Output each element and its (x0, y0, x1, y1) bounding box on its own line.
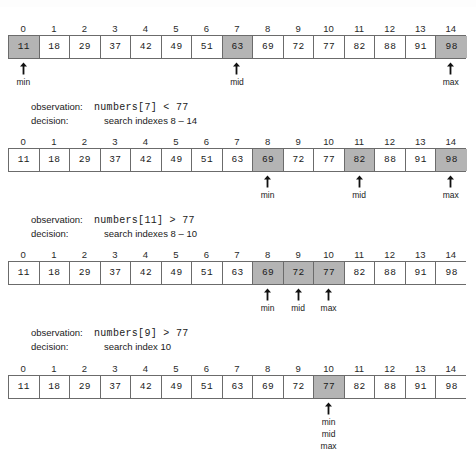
array-cell: 88 (375, 36, 406, 58)
array-cell: 18 (40, 36, 71, 58)
index-row: 01234567891011121314 (8, 135, 466, 148)
pointer-max: max (435, 59, 466, 88)
index-label: 6 (191, 362, 222, 375)
step-1: 0123456789101112131411182937424951636972… (0, 22, 476, 105)
pointer-mid: mid (222, 59, 253, 88)
note-step-2: observation:numbers[11] > 77decision:sea… (31, 214, 197, 242)
array-cell: 18 (40, 262, 71, 284)
decision-label: decision: (31, 115, 94, 126)
note-step-1: observation:numbers[7] < 77decision:sear… (31, 101, 197, 129)
pointer-label-mid: mid (344, 189, 375, 201)
array-cell: 88 (375, 376, 406, 398)
array-cell: 72 (284, 149, 315, 171)
index-label: 11 (344, 362, 375, 375)
pointer-layer: minmidmax (8, 172, 466, 218)
index-label: 4 (130, 248, 161, 261)
arrow-up-icon (263, 288, 272, 301)
array-cell: 18 (40, 376, 71, 398)
arrow-up-icon (19, 62, 28, 75)
index-label: 2 (69, 135, 100, 148)
index-label: 11 (344, 22, 375, 35)
pointer-label-max: max (313, 440, 344, 452)
decision-value: search index 10 (94, 341, 171, 352)
pointer-label-min: min (252, 189, 283, 201)
array-row: 111829374249516369727782889198 (8, 35, 466, 59)
observation-line: observation:numbers[11] > 77 (31, 214, 197, 228)
array-cell: 49 (162, 262, 193, 284)
index-label: 13 (405, 22, 436, 35)
index-label: 1 (39, 22, 70, 35)
decision-line: decision:search index 10 (31, 341, 189, 355)
index-label: 12 (374, 22, 405, 35)
index-label: 10 (313, 22, 344, 35)
arrow-up-icon (294, 288, 303, 301)
array-cell: 42 (131, 262, 162, 284)
index-label: 9 (283, 248, 314, 261)
array-cell: 77 (314, 36, 345, 58)
index-label: 14 (435, 22, 466, 35)
pointer-mid: mid (344, 172, 375, 201)
index-label: 9 (283, 22, 314, 35)
array-cell: 18 (40, 149, 71, 171)
observation-value: numbers[7] < 77 (94, 102, 189, 113)
pointer-label-min: min (8, 76, 39, 88)
observation-line: observation:numbers[7] < 77 (31, 101, 197, 115)
array-cell: 29 (70, 149, 101, 171)
array-cell: 42 (131, 36, 162, 58)
arrow-up-icon (324, 402, 333, 415)
index-label: 13 (405, 135, 436, 148)
index-label: 13 (405, 248, 436, 261)
decision-line: decision:search indexes 8 – 14 (31, 115, 197, 129)
array-cell: 82 (345, 376, 376, 398)
array-cell: 69 (253, 36, 284, 58)
array-cell-highlighted: 98 (436, 149, 467, 171)
observation-label: observation: (31, 214, 94, 225)
index-row: 01234567891011121314 (8, 362, 466, 375)
array-cell-highlighted: 69 (253, 262, 284, 284)
scan-artifact (0, 0, 476, 7)
array-cell: 51 (192, 149, 223, 171)
array-row: 111829374249516369727782889198 (8, 148, 466, 172)
observation-value: numbers[9] > 77 (94, 328, 189, 339)
array-cell-highlighted: 98 (436, 36, 467, 58)
pointer-labels: max (313, 302, 344, 314)
arrow-up-icon (324, 288, 333, 301)
index-label: 5 (161, 22, 192, 35)
index-row: 01234567891011121314 (8, 22, 466, 35)
pointer-min: min (252, 285, 283, 314)
array-cell: 37 (101, 36, 132, 58)
array-cell: 91 (406, 36, 437, 58)
pointer-labels: max (435, 76, 466, 88)
array-cell-highlighted: 77 (314, 262, 345, 284)
step-2: 0123456789101112131411182937424951636972… (0, 135, 476, 218)
pointer-labels: max (435, 189, 466, 201)
array-cell: 51 (192, 376, 223, 398)
array-cell: 82 (345, 36, 376, 58)
arrow-up-icon (355, 175, 364, 188)
observation-label: observation: (31, 101, 94, 112)
index-label: 4 (130, 362, 161, 375)
array-cell: 91 (406, 376, 437, 398)
pointer-labels: min (8, 76, 39, 88)
array-cell-highlighted: 63 (223, 36, 254, 58)
index-label: 12 (374, 248, 405, 261)
index-label: 3 (100, 248, 131, 261)
pointer-min: min (252, 172, 283, 201)
pointer-label-max: max (435, 76, 466, 88)
array-cell: 29 (70, 262, 101, 284)
index-label: 8 (252, 22, 283, 35)
index-label: 4 (130, 135, 161, 148)
array-cell-highlighted: 72 (284, 262, 315, 284)
pointer-labels: mid (222, 76, 253, 88)
pointer-label-mid: mid (283, 302, 314, 314)
index-label: 7 (222, 248, 253, 261)
index-label: 4 (130, 22, 161, 35)
index-label: 0 (8, 362, 39, 375)
array-cell: 69 (253, 376, 284, 398)
decision-line: decision:search indexes 8 – 10 (31, 228, 197, 242)
array-cell: 88 (375, 262, 406, 284)
array-row: 111829374249516369727782889198 (8, 375, 466, 399)
pointer-layer: minmidmax (8, 285, 466, 331)
array-row: 111829374249516369727782889198 (8, 261, 466, 285)
array-cell: 98 (436, 376, 467, 398)
